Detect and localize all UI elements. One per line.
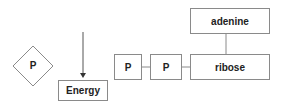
free-phosphate-label: P bbox=[23, 60, 43, 71]
energy-box: Energy bbox=[58, 80, 108, 101]
adenine-box: adenine bbox=[190, 8, 270, 34]
phosphate-label-1: P bbox=[125, 62, 132, 73]
phosphate-box-2: P bbox=[150, 54, 182, 80]
energy-label: Energy bbox=[66, 85, 100, 96]
adenine-label: adenine bbox=[211, 16, 249, 27]
ribose-label: ribose bbox=[215, 62, 245, 73]
arrow-down-icon bbox=[80, 73, 86, 78]
phosphate-label-2: P bbox=[163, 62, 170, 73]
phosphate-box-1: P bbox=[114, 54, 142, 80]
ribose-box: ribose bbox=[190, 54, 270, 80]
